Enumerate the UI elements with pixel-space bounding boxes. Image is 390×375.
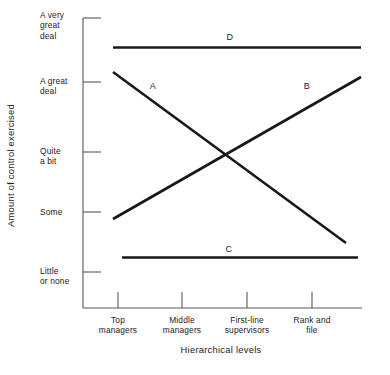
x-tick-label-rank-and-file: Rank and file bbox=[274, 315, 350, 336]
series-label-b: B bbox=[304, 81, 310, 91]
series-label-d: D bbox=[227, 32, 234, 42]
y-axis-title: Amount of control exercised bbox=[5, 104, 16, 227]
y-tick-label-quite-a-bit: Quite a bit bbox=[40, 146, 84, 167]
series-label-a: A bbox=[150, 81, 156, 91]
control-graph-figure: A very great deal A great deal Quite a b… bbox=[0, 0, 390, 375]
series-line-a bbox=[113, 72, 346, 243]
y-tick-label-a-very-great-deal: A very great deal bbox=[40, 10, 84, 41]
series-label-c: C bbox=[226, 244, 233, 254]
y-tick-label-some: Some bbox=[40, 207, 84, 217]
y-tick-label-a-great-deal: A great deal bbox=[40, 76, 84, 97]
x-axis-title: Hierarchical levels bbox=[181, 344, 262, 355]
y-tick-label-little-or-none: Little or none bbox=[40, 266, 88, 287]
